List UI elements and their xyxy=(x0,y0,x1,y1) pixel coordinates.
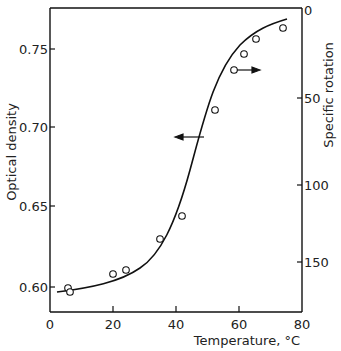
x-ticks xyxy=(113,306,239,312)
y2-tick-100: 100 xyxy=(304,178,329,193)
y2-tick-150: 150 xyxy=(304,255,329,270)
y2-tick-50: 50 xyxy=(304,91,321,106)
data-point xyxy=(110,271,117,278)
right-y-ticks xyxy=(297,98,302,262)
fitted-curve xyxy=(57,19,287,292)
x-tick-40: 40 xyxy=(168,317,185,332)
y-tick-075: 0.75 xyxy=(19,42,48,57)
x-tick-20: 20 xyxy=(105,317,122,332)
left-y-ticks xyxy=(50,49,55,287)
y-tick-065: 0.65 xyxy=(19,199,48,214)
left-y-tick-labels: 0.75 0.70 0.65 0.60 xyxy=(19,42,48,295)
plot-frame xyxy=(50,8,302,312)
y-tick-070: 0.70 xyxy=(19,120,48,135)
data-point xyxy=(157,236,164,243)
x-tick-60: 60 xyxy=(231,317,248,332)
chart: 0 20 40 60 80 Temperature, °C 0.75 0.70 … xyxy=(0,0,341,351)
x-tick-80: 80 xyxy=(294,317,311,332)
y2-tick-0: 0 xyxy=(304,3,312,18)
left-y-axis-title: Optical density xyxy=(4,103,19,201)
data-point xyxy=(67,289,74,296)
x-axis-title: Temperature, °C xyxy=(193,333,300,348)
data-point xyxy=(231,67,238,74)
data-point xyxy=(253,36,260,43)
x-tick-0: 0 xyxy=(46,317,54,332)
x-tick-labels: 0 20 40 60 80 xyxy=(46,317,310,332)
data-point xyxy=(241,51,248,58)
arrow-right-icon xyxy=(237,67,260,73)
data-point xyxy=(280,25,287,32)
y-tick-060: 0.60 xyxy=(19,280,48,295)
data-points xyxy=(65,25,287,296)
data-point xyxy=(212,107,219,114)
right-y-axis-title: Specific rotation xyxy=(321,42,336,148)
data-point xyxy=(123,267,130,274)
data-point xyxy=(179,213,186,220)
